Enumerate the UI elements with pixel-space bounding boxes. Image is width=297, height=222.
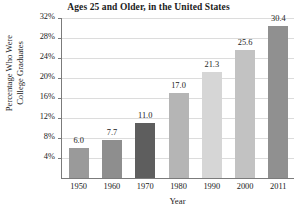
bar-value-label: 7.7	[92, 128, 132, 137]
y-axis-tick-label: 24%	[19, 52, 55, 61]
bar-value-label: 6.0	[59, 136, 99, 145]
plot-area: 32%28%24%20%16%12%8%4% 6.07.711.017.021.…	[61, 18, 294, 178]
y-axis-tick-label: 12%	[19, 112, 55, 121]
y-axis-tick-mark	[58, 38, 62, 39]
x-axis-tick-label: 2011	[258, 182, 297, 191]
bar	[102, 140, 122, 179]
y-axis-label-line-1: Percentage Who Were	[4, 35, 15, 111]
y-axis-tick-label: 4%	[19, 152, 55, 161]
bar-value-label: 11.0	[125, 111, 165, 120]
y-axis-tick-mark	[58, 78, 62, 79]
bar	[135, 123, 155, 178]
bar-chart-figure: Ages 25 and Older, in the United States …	[0, 0, 297, 222]
plot-inner: 32%28%24%20%16%12%8%4% 6.07.711.017.021.…	[61, 18, 294, 178]
y-axis-tick-mark	[58, 58, 62, 59]
y-axis-tick-label: 20%	[19, 72, 55, 81]
y-axis-tick-mark	[58, 18, 62, 19]
x-axis-line	[61, 178, 294, 179]
bar	[169, 93, 189, 178]
bar	[268, 26, 288, 178]
y-axis-tick-label: 8%	[19, 132, 55, 141]
gridline	[61, 78, 294, 79]
y-axis-tick-mark	[58, 98, 62, 99]
y-axis-tick-label: 32%	[19, 12, 55, 21]
bar	[69, 148, 89, 178]
x-axis-label: Year	[61, 196, 294, 206]
bar-value-label: 17.0	[159, 81, 199, 90]
bar-value-label: 21.3	[192, 60, 232, 69]
bar	[202, 72, 222, 179]
y-axis-tick-mark	[58, 158, 62, 159]
bar	[235, 50, 255, 178]
y-axis-tick-label: 16%	[19, 92, 55, 101]
y-axis-tick-label: 28%	[19, 32, 55, 41]
gridline	[61, 58, 294, 59]
bar-value-label: 30.4	[258, 14, 297, 23]
bar-value-label: 25.6	[225, 38, 265, 47]
y-axis-tick-mark	[58, 118, 62, 119]
